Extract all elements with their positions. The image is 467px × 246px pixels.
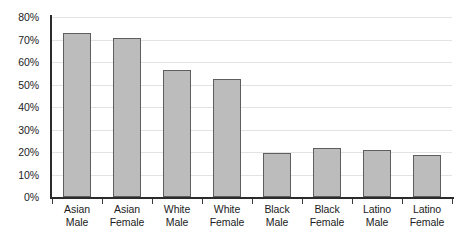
y-axis-tick-label: 40% [18, 102, 39, 113]
bar-black-male [263, 153, 290, 197]
bar-latino-male [363, 150, 390, 197]
bar-white-male [163, 70, 190, 197]
x-axis-category-label: Latino Female [396, 203, 458, 229]
bar-black-female [313, 148, 340, 198]
bar-white-female [213, 79, 240, 197]
x-axis-category-line: Latino [396, 203, 458, 216]
y-axis-tick-label: 10% [18, 170, 39, 181]
y-axis-tick-label: 20% [18, 147, 39, 158]
y-axis-tick-label: 70% [18, 35, 39, 46]
y-axis-tick-label: 30% [18, 125, 39, 136]
y-axis-tick-label: 50% [18, 80, 39, 91]
bar-latino-female [413, 155, 440, 197]
y-axis-line [50, 15, 52, 199]
y-axis-labels: 80% 70% 60% 50% 40% 30% 20% 10% 0% [0, 0, 46, 246]
bar-chart: 80% 70% 60% 50% 40% 30% 20% 10% 0% [0, 0, 467, 246]
bar-asian-female [113, 38, 140, 197]
x-axis-labels: Asian Male Asian Female White Male White… [52, 203, 452, 245]
bar-series [52, 0, 452, 197]
y-axis-tick-label: 60% [18, 57, 39, 68]
x-axis-category-line: Female [396, 216, 458, 229]
y-axis-tick-label: 0% [24, 192, 39, 203]
bar-asian-male [63, 33, 90, 197]
y-axis-tick-label: 80% [18, 12, 39, 23]
